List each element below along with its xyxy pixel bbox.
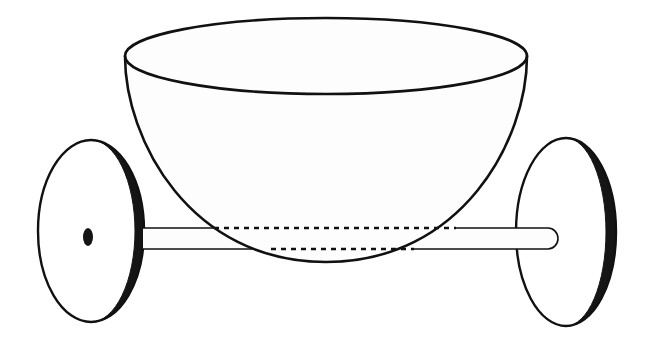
left-wheel-hub-icon (83, 228, 93, 246)
cart-diagram: Hemispherical bowl cart Technical line d… (0, 0, 653, 361)
figure-canvas: Hemispherical bowl cart Technical line d… (0, 0, 653, 361)
left-wheel (38, 140, 144, 322)
